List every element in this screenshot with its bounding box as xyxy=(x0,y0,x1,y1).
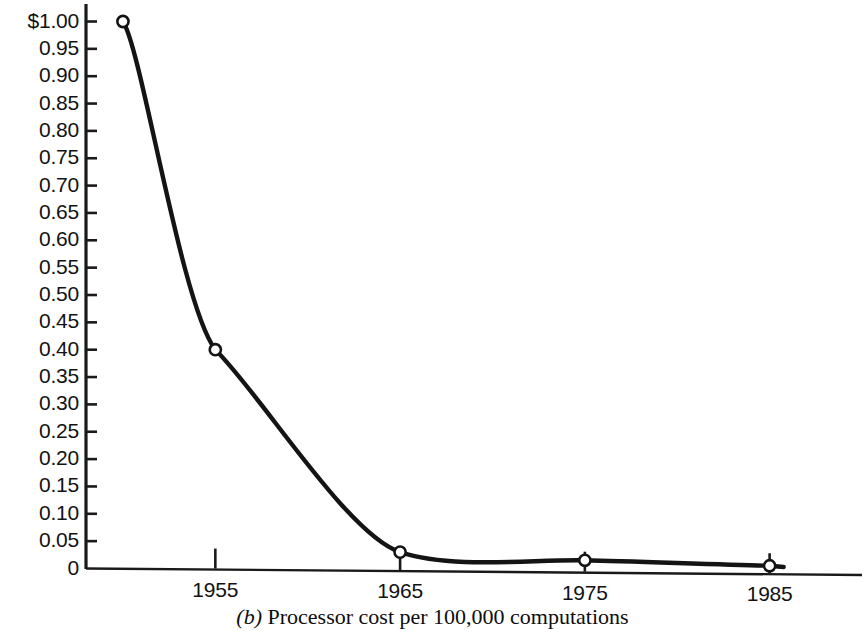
x-axis-tick-label: 1975 xyxy=(562,581,608,605)
figure-caption: (b) Processor cost per 100,000 computati… xyxy=(0,604,865,630)
caption-text: Processor cost per 100,000 computations xyxy=(268,604,629,629)
x-axis-tick-label: 1985 xyxy=(747,582,793,606)
caption-letter: (b) xyxy=(236,604,262,629)
x-axis-tick-label: 1955 xyxy=(192,578,238,602)
chart-figure: $1.000.950.900.850.800.750.700.650.600.5… xyxy=(0,0,865,638)
x-axis-tick-label: 1965 xyxy=(377,579,423,603)
x-axis-label-group: 1955196519751985 xyxy=(0,0,865,638)
